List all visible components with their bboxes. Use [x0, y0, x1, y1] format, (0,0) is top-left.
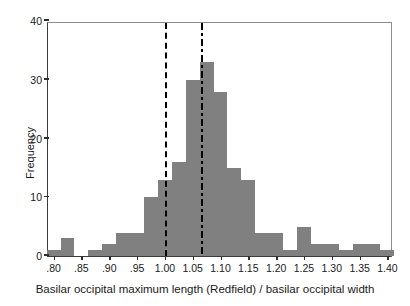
x-axis-tick — [360, 256, 361, 260]
x-axis-tick-label: 1.20 — [266, 262, 286, 274]
x-axis-tick — [81, 256, 82, 260]
histogram-bar — [61, 238, 75, 256]
histogram-bar — [325, 244, 339, 256]
x-axis-tick — [109, 256, 110, 260]
x-axis-tick-label: .80 — [46, 262, 61, 274]
histogram-bar — [269, 233, 283, 257]
histogram-bar — [353, 244, 367, 256]
reference-line-dashdot — [201, 23, 203, 256]
histogram-bar — [214, 92, 228, 257]
histogram-bar — [339, 250, 353, 256]
y-axis-tick-label: 20 — [30, 133, 42, 145]
reference-line-dashed — [165, 23, 167, 256]
histogram-bar — [144, 197, 158, 256]
y-axis-tick-label: 40 — [30, 15, 42, 27]
x-axis-title: Basilar occipital maximum length (Redfie… — [0, 283, 410, 295]
y-axis-tick-label: 0 — [36, 250, 42, 262]
histogram-bar — [367, 244, 381, 256]
histogram-bar — [116, 233, 130, 257]
histogram-bar — [297, 227, 311, 256]
histogram-bar — [311, 244, 325, 256]
histogram-bar — [255, 233, 269, 257]
x-axis-tick — [221, 256, 222, 260]
x-axis-tick — [137, 256, 138, 260]
x-axis-tick-label: 1.15 — [238, 262, 258, 274]
x-axis-tick — [193, 256, 194, 260]
histogram-bar — [130, 233, 144, 257]
histogram-bar — [186, 80, 200, 256]
histogram-bar — [102, 244, 116, 256]
x-axis-tick-label: .90 — [102, 262, 117, 274]
plot-area: 010203040 .80.85.90.951.001.051.101.151.… — [47, 22, 392, 257]
x-axis-tick — [387, 256, 388, 260]
y-axis-tick — [44, 137, 49, 139]
x-axis-tick-label: 1.00 — [155, 262, 175, 274]
histogram-figure: Frequency 010203040 .80.85.90.951.001.05… — [0, 0, 410, 306]
histogram-bar — [227, 168, 241, 256]
x-axis-tick — [248, 256, 249, 260]
y-axis-tick — [44, 196, 49, 198]
x-axis-tick-label: 1.05 — [182, 262, 202, 274]
x-axis-tick — [276, 256, 277, 260]
x-axis-tick-label: 1.30 — [322, 262, 342, 274]
x-axis-tick-label: 1.35 — [349, 262, 369, 274]
x-axis-tick-label: 1.25 — [294, 262, 314, 274]
x-axis-tick — [54, 256, 55, 260]
bars-group — [48, 23, 391, 256]
x-axis-tick-label: 1.40 — [377, 262, 397, 274]
x-axis-tick — [332, 256, 333, 260]
histogram-bar — [283, 250, 297, 256]
x-axis-tick-label: .85 — [74, 262, 89, 274]
x-axis-tick — [165, 256, 166, 260]
histogram-bar — [241, 180, 255, 256]
x-axis-tick-label: .95 — [130, 262, 145, 274]
x-axis-tick — [304, 256, 305, 260]
y-axis-tick — [44, 254, 49, 256]
y-axis-tick-label: 10 — [30, 191, 42, 203]
y-axis-tick-label: 30 — [30, 74, 42, 86]
y-axis-tick — [44, 78, 49, 80]
histogram-bar — [172, 162, 186, 256]
y-axis-tick — [44, 19, 49, 21]
x-axis-tick-label: 1.10 — [210, 262, 230, 274]
histogram-bar — [88, 250, 102, 256]
